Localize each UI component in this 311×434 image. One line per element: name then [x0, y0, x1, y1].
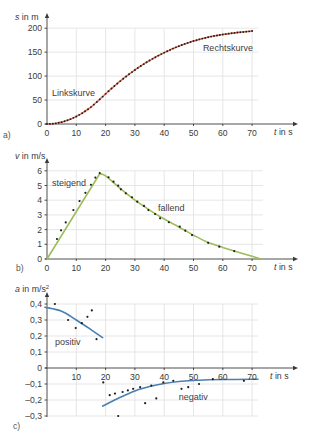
- data-point: [75, 115, 77, 117]
- y-tick-label: 4: [37, 195, 42, 205]
- annotation-label: fallend: [158, 203, 185, 213]
- data-point: [251, 30, 253, 32]
- data-point: [160, 53, 162, 55]
- data-point: [172, 48, 174, 50]
- y-tick-label: 5: [37, 181, 42, 191]
- panel-label: c): [13, 421, 20, 431]
- data-point: [78, 114, 80, 116]
- data-point: [213, 35, 215, 37]
- data-point: [212, 378, 214, 380]
- data-point: [61, 121, 63, 123]
- data-point: [245, 31, 247, 33]
- y-tick-label: 0,4: [30, 299, 42, 309]
- x-axis-title: t in s: [274, 127, 293, 137]
- data-point: [143, 63, 145, 65]
- data-point: [52, 123, 54, 125]
- data-point: [172, 380, 174, 382]
- data-point: [159, 217, 161, 219]
- data-point: [144, 402, 146, 404]
- y-axis-arrow-icon: [45, 158, 49, 163]
- annotation-label: negativ: [179, 392, 209, 402]
- data-point: [67, 319, 69, 321]
- data-point: [179, 226, 181, 228]
- data-point: [228, 33, 230, 35]
- data-point: [137, 67, 139, 69]
- data-point: [162, 381, 164, 383]
- data-point: [90, 184, 92, 186]
- data-point: [152, 58, 154, 60]
- data-point: [64, 120, 66, 122]
- annotations: steigendfallend: [52, 178, 185, 213]
- data-point: [116, 83, 118, 85]
- data-point: [75, 327, 77, 329]
- data-point: [108, 90, 110, 92]
- data-point: [99, 98, 101, 100]
- data-point: [65, 221, 67, 223]
- x-tick-label: 70: [247, 372, 257, 382]
- y-tick-label: 0,2: [30, 331, 42, 341]
- x-tick-label: 40: [159, 263, 169, 273]
- data-point: [60, 229, 62, 231]
- data-point: [243, 380, 245, 382]
- data-point: [120, 188, 122, 190]
- y-tick-label: 6: [37, 166, 42, 176]
- data-point: [163, 52, 165, 54]
- data-point: [72, 209, 74, 211]
- x-tick-label: 40: [159, 372, 169, 382]
- x-tick-label: 50: [189, 128, 199, 138]
- data-point: [131, 71, 133, 73]
- data-point: [99, 172, 101, 174]
- data-point: [149, 60, 151, 62]
- data-point: [105, 93, 107, 95]
- x-tick-label: 0: [45, 128, 50, 138]
- fitted-curve-fallend: [100, 174, 261, 259]
- data-point: [193, 40, 195, 42]
- data-point: [231, 32, 233, 34]
- data-point: [112, 181, 114, 183]
- data-point: [67, 119, 69, 121]
- data-point: [84, 110, 86, 112]
- curves: [45, 307, 258, 406]
- motion-graphs-figure: 050100150200010203040506070 LinkskurveRe…: [0, 0, 311, 434]
- data-point: [102, 381, 104, 383]
- data-point: [125, 192, 127, 194]
- data-point: [147, 209, 149, 211]
- data-point: [146, 61, 148, 63]
- data-point: [84, 192, 86, 194]
- panel-a-distance-time: 050100150200010203040506070 LinkskurveRe…: [3, 12, 298, 140]
- data-point: [198, 38, 200, 40]
- x-tick-label: 0: [45, 263, 50, 273]
- y-tick-label: 50: [32, 95, 42, 105]
- data-point: [136, 201, 138, 203]
- data-point: [93, 104, 95, 106]
- data-point: [111, 88, 113, 90]
- data-point: [181, 44, 183, 46]
- data-point: [187, 386, 189, 388]
- data-point: [234, 32, 236, 34]
- data-point: [86, 316, 88, 318]
- y-tick-label: –0,3: [25, 411, 42, 421]
- data-point: [216, 35, 218, 37]
- data-point: [55, 122, 57, 124]
- x-tick-label: 30: [130, 263, 140, 273]
- data-point: [210, 36, 212, 38]
- x-tick-label: 10: [72, 128, 82, 138]
- x-tick-label: 50: [189, 263, 199, 273]
- data-point: [237, 32, 239, 34]
- data-point: [180, 388, 182, 390]
- data-point: [143, 205, 145, 207]
- data-point: [94, 176, 96, 178]
- data-point: [225, 33, 227, 35]
- axes: [45, 13, 299, 126]
- tick-labels: 0,40,30,20,10–0,1–0,2–0,310203040506070: [25, 299, 257, 421]
- data-point: [248, 30, 250, 32]
- fitted-curve-positiv: [45, 307, 103, 337]
- data-point: [168, 221, 170, 223]
- x-tick-label: 50: [189, 372, 199, 382]
- x-tick-label: 20: [101, 128, 111, 138]
- data-point: [122, 78, 124, 80]
- x-axis-arrow-icon: [293, 122, 298, 126]
- data-point: [127, 389, 129, 391]
- data-point: [195, 39, 197, 41]
- data-point: [222, 34, 224, 36]
